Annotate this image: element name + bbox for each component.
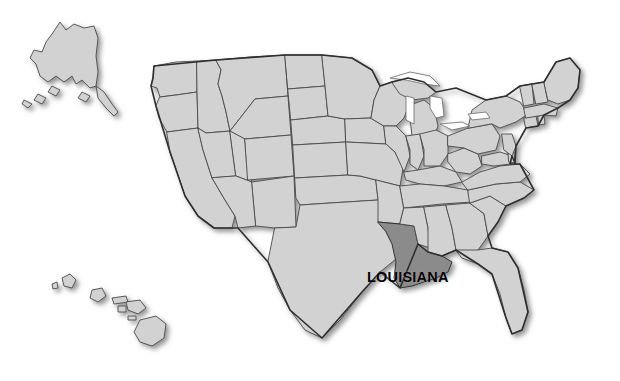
state-maryland	[482, 152, 512, 166]
state-new-york	[468, 96, 528, 128]
alaska-inset-icon	[22, 22, 118, 116]
state-kansas	[293, 142, 348, 178]
inset-hawaii-big-island	[134, 316, 166, 346]
state-minnesota	[322, 55, 380, 119]
inset-hawaii-niihau	[52, 282, 58, 289]
inset-hawaii-maui	[126, 300, 146, 314]
state-vermont	[520, 84, 534, 106]
inset-hawaii-molokai	[112, 296, 128, 304]
inset-alaska-kodiak	[78, 92, 90, 102]
inset-hawaii-kahoolawe	[128, 316, 136, 320]
highlighted-state-label: LOUISIANA	[367, 270, 449, 285]
state-florida	[456, 248, 528, 334]
state-north-dakota	[285, 55, 325, 89]
state-south-dakota	[288, 86, 328, 120]
us-locator-map: LOUISIANA	[0, 0, 620, 381]
inset-alaska-aleutians-b	[34, 94, 46, 104]
state-ohio	[420, 130, 448, 166]
state-new-mexico	[252, 176, 296, 228]
inset-hawaii-lanai	[118, 306, 126, 312]
inset-alaska-aleutians-c	[22, 100, 32, 108]
inset-hawaii-kauai	[62, 274, 76, 288]
inset-alaska-panhandle	[96, 86, 118, 116]
state-colorado	[245, 135, 294, 180]
state-maine	[544, 58, 580, 104]
hawaii-inset-icon	[52, 274, 166, 346]
state-nebraska	[291, 116, 346, 145]
lake-michigan	[406, 96, 414, 124]
inset-alaska-aleutians-a	[48, 86, 60, 96]
inset-alaska-mainland	[30, 22, 98, 88]
contiguous-states-group	[151, 55, 580, 338]
map-canvas	[0, 0, 620, 381]
inset-hawaii-oahu	[90, 288, 106, 302]
